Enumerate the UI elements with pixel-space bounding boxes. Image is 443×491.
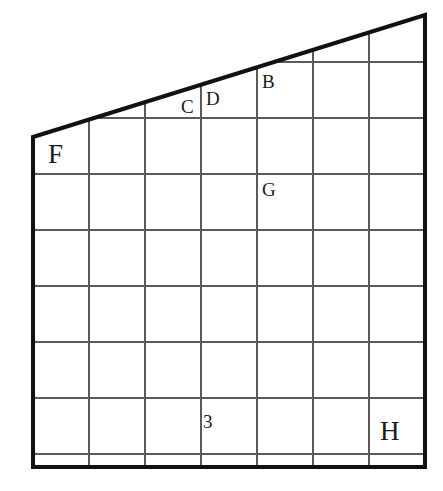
label-f: F	[48, 141, 63, 168]
figure-canvas	[0, 0, 443, 491]
figure-background	[0, 0, 443, 491]
label-h: H	[380, 418, 400, 445]
label-c: C	[181, 97, 194, 116]
label-g: G	[262, 180, 276, 199]
label-3: 3	[203, 412, 213, 431]
label-b: B	[262, 72, 275, 91]
label-d: D	[206, 89, 220, 108]
geometry-figure: BCDFG3H	[0, 0, 443, 491]
